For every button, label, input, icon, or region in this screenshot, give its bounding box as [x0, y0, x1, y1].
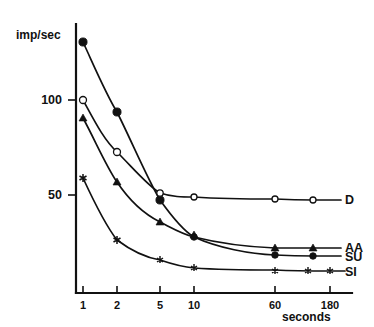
- curve-aa: [83, 118, 341, 248]
- series-label-d: D: [345, 194, 354, 207]
- x-tick-label-60: 60: [269, 300, 281, 311]
- marker-si-1: [80, 174, 87, 182]
- marker-aa-1: [79, 114, 87, 121]
- marker-d-60: [272, 196, 278, 202]
- series-label-si: SI: [345, 266, 357, 279]
- marker-su-5: [156, 196, 164, 204]
- chart-figure: imp/sec 100 50 1 2 5 10 60 180 seconds D…: [0, 0, 374, 327]
- x-tick-label-5: 5: [157, 300, 163, 311]
- x-tick-label-1: 1: [80, 300, 86, 311]
- marker-d-2: [114, 149, 121, 156]
- x-axis-title: seconds: [282, 311, 331, 323]
- series-label-su: SU: [345, 251, 362, 264]
- y-axis-title: imp/sec: [16, 29, 61, 41]
- y-tick-label-100: 100: [30, 94, 62, 107]
- y-tick-label-50: 50: [30, 189, 62, 202]
- curve-su: [83, 42, 341, 256]
- marker-su-120: [310, 253, 317, 260]
- marker-su-60: [272, 252, 279, 259]
- plot-area: [0, 0, 374, 327]
- x-tick-label-2: 2: [114, 300, 120, 311]
- marker-su-1: [79, 38, 87, 46]
- marker-d-1: [80, 97, 87, 104]
- marker-d-5: [157, 190, 163, 196]
- x-tick-label-10: 10: [188, 300, 200, 311]
- marker-su-2: [113, 108, 121, 116]
- curve-si: [83, 178, 345, 271]
- curve-d: [83, 100, 341, 200]
- marker-d-120: [310, 197, 316, 203]
- marker-d-10: [191, 194, 197, 200]
